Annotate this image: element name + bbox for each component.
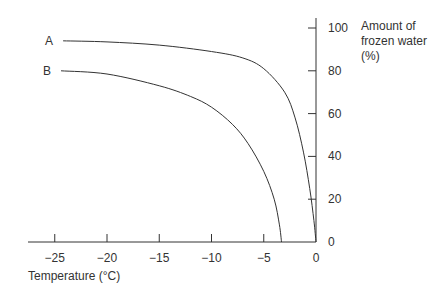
y-tick-label: 60	[328, 107, 342, 121]
y-tick-label: 0	[328, 235, 335, 249]
axes	[28, 18, 316, 242]
x-tick-label: −25	[45, 251, 66, 265]
x-tick-label: −10	[201, 251, 222, 265]
chart: −25−20−15−10−50020406080100ABAmount offr…	[0, 0, 444, 288]
series-label-a: A	[45, 34, 53, 48]
curves	[61, 41, 316, 242]
y-tick-label: 100	[328, 21, 348, 35]
x-tick-label: −5	[257, 251, 271, 265]
curve-b	[61, 71, 281, 242]
x-axis-label: Temperature (°C)	[28, 269, 120, 283]
x-tick-label: −15	[149, 251, 170, 265]
labels: −25−20−15−10−50020406080100ABAmount offr…	[28, 19, 427, 283]
x-tick-label: 0	[313, 251, 320, 265]
curve-a	[63, 41, 316, 242]
y-axis-label: Amount of	[361, 19, 416, 33]
y-axis-label: (%)	[361, 49, 380, 63]
y-tick-label: 80	[328, 64, 342, 78]
series-label-b: B	[43, 64, 51, 78]
y-tick-label: 40	[328, 149, 342, 163]
y-axis-label: frozen water	[361, 34, 427, 48]
y-tick-label: 20	[328, 192, 342, 206]
x-tick-label: −20	[97, 251, 118, 265]
